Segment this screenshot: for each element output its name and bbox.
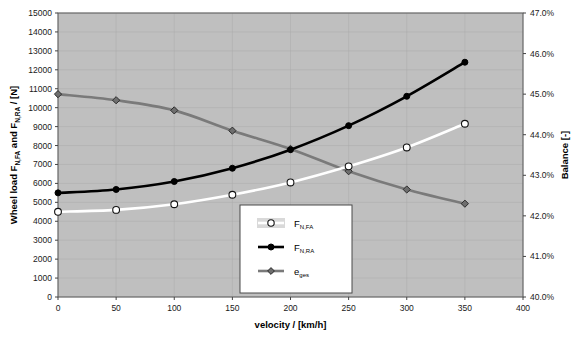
data-point (171, 179, 177, 185)
chart-legend: FN,FAFN,RAeges (240, 205, 352, 293)
data-point (346, 123, 352, 129)
y-axis-tick-label: 2000 (33, 254, 52, 264)
y2-axis-tick-label: 45.0% (530, 89, 555, 99)
y-axis-tick-label: 5000 (33, 197, 52, 207)
data-point (171, 201, 178, 208)
data-point (113, 207, 120, 214)
data-point (229, 165, 235, 171)
chart-container: 0100020003000400050006000700080009000100… (0, 0, 579, 341)
y-axis-tick-label: 14000 (28, 27, 52, 37)
data-point (229, 191, 236, 198)
x-axis-tick-label: 300 (400, 303, 414, 313)
data-point (55, 190, 61, 196)
y-axis-tick-label: 11000 (29, 84, 52, 94)
x-axis-tick-label: 250 (342, 303, 356, 313)
y-axis-tick-label: 9000 (33, 122, 52, 132)
data-point (287, 179, 294, 186)
x-axis-tick-label: 350 (458, 303, 472, 313)
data-point (462, 59, 468, 65)
y-axis-tick-label: 8000 (33, 141, 52, 151)
legend-key-marker (268, 244, 274, 250)
legend-key-marker (268, 220, 274, 226)
data-point (55, 208, 62, 215)
y2-axis-tick-label: 41.0% (530, 251, 555, 261)
x-axis-tick-label: 0 (56, 303, 61, 313)
y-axis-tick-label: 6000 (33, 178, 52, 188)
x-axis-tick-label: 200 (283, 303, 297, 313)
y2-axis-tick-label: 46.0% (530, 49, 555, 59)
data-point (113, 186, 119, 192)
x-axis-tick-label: 50 (111, 303, 121, 313)
x-axis-tick-label: 150 (225, 303, 239, 313)
y-axis-tick-label: 1000 (33, 273, 52, 283)
x-axis-tick-label: 100 (167, 303, 181, 313)
data-point (403, 144, 410, 151)
y2-axis-tick-label: 44.0% (530, 130, 555, 140)
y2-axis-title: Balance [-] (559, 131, 570, 180)
data-point (288, 147, 294, 153)
data-point (461, 120, 468, 127)
y2-axis-tick-label: 43.0% (530, 170, 555, 180)
data-point (345, 163, 352, 170)
y-axis-tick-label: 10000 (28, 103, 52, 113)
y-axis-tick-label: 13000 (28, 46, 52, 56)
y-axis-tick-label: 3000 (33, 235, 52, 245)
y2-axis-tick-label: 42.0% (530, 211, 555, 221)
y-axis-tick-label: 12000 (28, 65, 52, 75)
y-axis-tick-label: 7000 (33, 159, 52, 169)
x-axis-tick-label: 400 (516, 303, 530, 313)
y-axis-tick-label: 15000 (28, 8, 52, 18)
data-point (404, 93, 410, 99)
y2-axis-tick-label: 40.0% (530, 292, 555, 302)
y2-axis-tick-label: 47.0% (530, 8, 555, 18)
wheel-load-balance-chart: 0100020003000400050006000700080009000100… (0, 0, 579, 341)
y-axis-tick-label: 0 (47, 292, 52, 302)
x-axis-title: velocity / [km/h] (255, 319, 327, 330)
y-axis-tick-label: 4000 (33, 216, 52, 226)
